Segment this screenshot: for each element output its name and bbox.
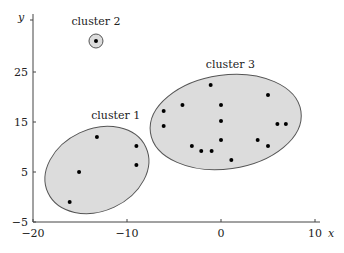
- data-point: [229, 158, 233, 162]
- x-tick-label: 0: [218, 227, 225, 240]
- data-point: [266, 144, 270, 148]
- data-point: [134, 144, 138, 148]
- cluster-1-label: cluster 1: [91, 109, 140, 122]
- y-tick-label: −5: [12, 216, 28, 229]
- data-point: [68, 200, 72, 204]
- data-point: [266, 93, 270, 97]
- data-point: [209, 83, 213, 87]
- y-axis-label: y: [17, 11, 25, 24]
- data-point: [284, 122, 288, 126]
- data-point: [210, 149, 214, 153]
- data-point: [199, 149, 203, 153]
- x-tick-label: 10: [308, 227, 322, 240]
- scatter-chart: −20−10010−551525xy cluster 1cluster 2clu…: [0, 0, 344, 253]
- y-tick-label: 5: [21, 166, 28, 179]
- cluster-3-ellipse: [144, 65, 308, 179]
- data-point: [256, 138, 260, 142]
- data-point: [219, 103, 223, 107]
- cluster-3-label: cluster 3: [206, 58, 255, 71]
- data-point: [219, 138, 223, 142]
- data-point: [162, 124, 166, 128]
- data-point: [180, 103, 184, 107]
- cluster-1-ellipse: [31, 110, 164, 230]
- data-point: [77, 170, 81, 174]
- data-point: [190, 144, 194, 148]
- data-point: [134, 163, 138, 167]
- y-tick-label: 15: [14, 116, 28, 129]
- x-axis-label: x: [328, 227, 335, 240]
- data-point: [162, 109, 166, 113]
- data-point: [95, 135, 99, 139]
- cluster-ellipses: [31, 34, 308, 230]
- y-tick-label: 25: [14, 66, 28, 79]
- cluster-2-label: cluster 2: [71, 15, 120, 28]
- data-point: [275, 122, 279, 126]
- data-point: [94, 39, 98, 43]
- x-tick-label: −10: [115, 227, 138, 240]
- data-point: [219, 119, 223, 123]
